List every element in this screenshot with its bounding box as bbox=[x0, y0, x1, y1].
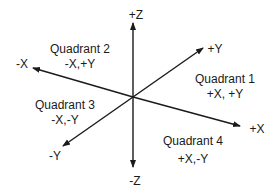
quadrant-1-label: Quadrant 1 +X, +Y bbox=[195, 72, 255, 102]
plus-y-label: +Y bbox=[207, 43, 222, 56]
plus-x-label: +X bbox=[249, 123, 264, 136]
coordinate-diagram: +Z -Z -X +X +Y -Y Quadrant 2 -X,+Y Quadr… bbox=[0, 0, 280, 194]
quadrant-4-title: Quadrant 4 bbox=[163, 134, 223, 149]
quadrant-2-signs: -X,+Y bbox=[50, 57, 110, 72]
quadrant-3-title: Quadrant 3 bbox=[35, 98, 95, 113]
quadrant-1-title: Quadrant 1 bbox=[195, 72, 255, 87]
quadrant-2-label: Quadrant 2 -X,+Y bbox=[50, 42, 110, 72]
quadrant-2-title: Quadrant 2 bbox=[50, 42, 110, 57]
minus-z-label: -Z bbox=[129, 175, 140, 188]
minus-x-axis-arrow bbox=[33, 68, 133, 97]
quadrant-4-label: Quadrant 4 +X,-Y bbox=[163, 134, 223, 167]
minus-x-label: -X bbox=[16, 58, 28, 71]
quadrant-4-signs: +X,-Y bbox=[163, 152, 223, 167]
plus-y-axis-arrow bbox=[133, 48, 203, 97]
plus-z-label: +Z bbox=[129, 9, 143, 22]
quadrant-3-label: Quadrant 3 -X,-Y bbox=[35, 98, 95, 128]
quadrant-1-signs: +X, +Y bbox=[195, 87, 255, 102]
minus-y-label: -Y bbox=[49, 150, 61, 163]
quadrant-3-signs: -X,-Y bbox=[35, 113, 95, 128]
